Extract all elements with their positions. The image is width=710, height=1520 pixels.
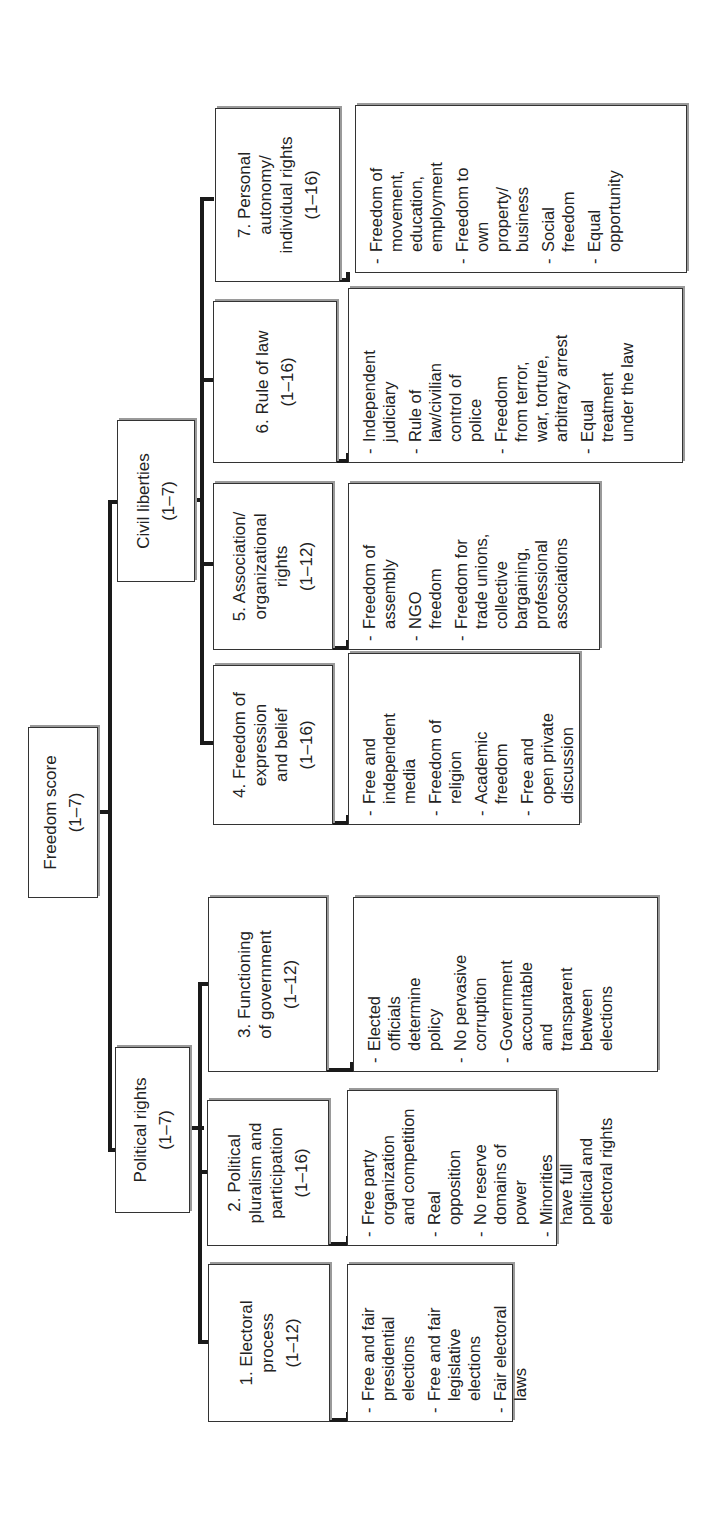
- category-range: (1–12): [296, 542, 317, 591]
- category-title: 1. Electoral process: [236, 1300, 278, 1385]
- details-freedom-of-expression: Free and independent media Freedom of re…: [348, 653, 580, 825]
- details-functioning-of-government: Elected officials determine policy No pe…: [353, 897, 658, 1072]
- category-rule-of-law-box: 6. Rule of law (1–16): [213, 301, 337, 463]
- category-range: (1–16): [277, 357, 298, 406]
- details-personal-autonomy: Freedom of movement, education, employme…: [355, 105, 687, 273]
- political-rights-title: Political rights: [130, 1078, 151, 1183]
- category-range: (1–16): [301, 170, 322, 219]
- category-title: 5. Association/ organizational rights: [229, 512, 292, 622]
- root-title: Freedom score: [40, 755, 61, 869]
- detail-item: Elected officials determine policy: [364, 906, 444, 1063]
- connector-cat4-riser: [200, 741, 214, 745]
- detail-item: Freedom to own property/ business: [452, 114, 532, 264]
- detail-item: No pervasive corruption: [450, 906, 490, 1063]
- category-functioning-of-government-box: 3. Functioning of government (1–12): [208, 897, 327, 1072]
- civil-liberties-range: (1–7): [158, 481, 179, 521]
- detail-item: Academic freedom: [471, 662, 511, 816]
- connector-political-bus: [198, 982, 202, 1344]
- category-range: (1–16): [296, 720, 317, 769]
- details-association-rights: Freedom of assembly NGO freedom Freedom …: [348, 483, 600, 650]
- connector-cat5-riser: [200, 562, 214, 566]
- details-rule-of-law: Independent judiciary Rule of law/civili…: [348, 288, 683, 463]
- category-title: 6. Rule of law: [252, 331, 273, 434]
- category-title: 7. Personal autonomy/ individual rights: [234, 136, 297, 253]
- detail-item: Free party organization and competition: [358, 1099, 418, 1237]
- category-electoral-process-box: 1. Electoral process (1–12): [208, 1264, 330, 1422]
- detail-item: Equal treatment under the law: [577, 297, 637, 454]
- detail-item: NGO freedom: [405, 492, 445, 641]
- political-rights-range: (1–7): [155, 1110, 176, 1150]
- connector-cat7-detail-h: [346, 272, 350, 282]
- detail-item: Freedom of religion: [425, 662, 465, 816]
- details-political-pluralism: Free party organization and competition …: [347, 1090, 557, 1246]
- detail-item: Freedom of movement, education, employme…: [366, 114, 446, 264]
- detail-item: Freedom of assembly: [359, 492, 399, 641]
- category-title: 2. Political pluralism and participation: [224, 1122, 287, 1223]
- category-range: (1–12): [280, 960, 301, 1009]
- detail-item: No reserve domains of power: [470, 1099, 530, 1237]
- category-freedom-of-expression-box: 4. Freedom of expression and belief (1–1…: [213, 665, 333, 825]
- category-political-pluralism-box: 2. Political pluralism and participation…: [207, 1100, 329, 1246]
- connector-civil-bus: [200, 197, 204, 745]
- detail-item: Free and open private discussion: [517, 662, 577, 816]
- category-personal-autonomy-box: 7. Personal autonomy/ individual rights …: [215, 108, 340, 282]
- category-range: (1–12): [282, 1318, 303, 1367]
- connector-level1-bus: [108, 500, 112, 1152]
- detail-item: Freedom for trade unions, collective bar…: [451, 492, 571, 641]
- detail-item: Free and independent media: [359, 662, 419, 816]
- detail-item: Real opposition: [424, 1099, 464, 1237]
- detail-item: Free and fair legislative elections: [424, 1273, 484, 1413]
- detail-item: Independent judiciary: [359, 297, 399, 454]
- root-freedom-score-box: Freedom score (1–7): [28, 727, 98, 898]
- detail-item: Minorities have full political and elect…: [536, 1099, 616, 1237]
- freedom-score-diagram: Freedom score (1–7) Political rights (1–…: [0, 0, 710, 1520]
- detail-item: Fair electoral laws: [490, 1273, 530, 1413]
- civil-liberties-box: Civil liberties (1–7): [117, 420, 195, 582]
- detail-item: Equal opportunity: [584, 114, 624, 264]
- connector-cat7-riser: [200, 197, 214, 201]
- category-range: (1–16): [291, 1148, 312, 1197]
- political-rights-box: Political rights (1–7): [115, 1047, 190, 1213]
- civil-liberties-title: Civil liberties: [133, 453, 154, 548]
- category-title: 3. Functioning of government: [234, 930, 276, 1039]
- detail-item: Rule of law/civilian control of police: [405, 297, 485, 454]
- detail-item: Government accountable and transparent b…: [496, 906, 616, 1063]
- details-electoral-process: Free and fair presidential elections Fre…: [347, 1264, 513, 1422]
- connector-cat6-riser: [200, 378, 214, 382]
- category-association-rights-box: 5. Association/ organizational rights (1…: [213, 483, 333, 650]
- detail-item: Social freedom: [538, 114, 578, 264]
- detail-item: Freedom from terror, war, torture, arbit…: [491, 297, 571, 454]
- detail-item: Free and fair presidential elections: [358, 1273, 418, 1413]
- category-title: 4. Freedom of expression and belief: [229, 692, 292, 798]
- root-range: (1–7): [65, 793, 86, 833]
